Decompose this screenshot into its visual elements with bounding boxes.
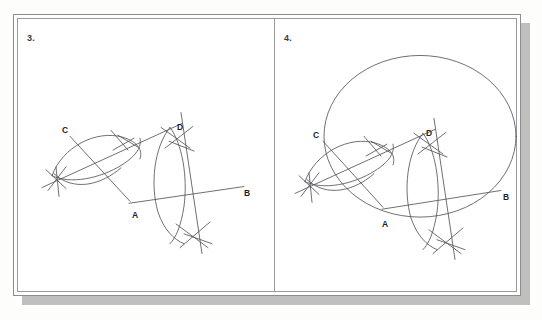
problem-panel-4: 4. — [275, 19, 518, 291]
problem-panel-3: 3. — [18, 19, 274, 291]
vertex-label-C-3: C — [62, 125, 68, 135]
vertex-labels-3: C D A B — [18, 19, 274, 291]
vertex-label-A-4: A — [382, 219, 388, 229]
worksheet-page: 3. — [0, 0, 542, 320]
vertex-label-D-3: D — [177, 122, 183, 132]
vertex-labels-4: C D A B — [275, 19, 518, 291]
vertex-label-B-3: B — [244, 188, 250, 198]
vertex-label-A-3: A — [132, 210, 138, 220]
vertex-label-D-4: D — [426, 128, 432, 138]
vertex-label-B-4: B — [503, 192, 509, 202]
worksheet-frame: 3. — [13, 14, 521, 296]
vertex-label-C-4: C — [313, 130, 319, 140]
worksheet-frame-inner: 3. — [17, 18, 517, 292]
